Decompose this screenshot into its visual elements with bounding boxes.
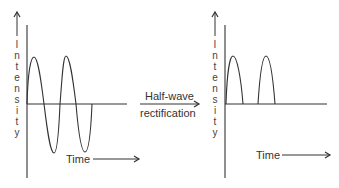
- letter: n: [12, 83, 22, 94]
- letter: I: [12, 39, 22, 50]
- letter: n: [210, 50, 220, 61]
- left-time-label: Time: [66, 154, 90, 165]
- letter: i: [210, 105, 220, 116]
- letter: n: [12, 50, 22, 61]
- right-intensity-label: I n t e n s i t y: [210, 39, 220, 138]
- letter: I: [210, 39, 220, 50]
- rectified-pulse-1: [226, 56, 243, 104]
- letter: t: [210, 61, 220, 72]
- letter: s: [12, 94, 22, 105]
- rectified-pulse-2: [258, 56, 275, 104]
- letter: t: [12, 61, 22, 72]
- letter: t: [210, 116, 220, 127]
- transform-label-line1: Half-wave: [145, 91, 194, 102]
- left-intensity-label: I n t e n s i t y: [12, 39, 22, 138]
- right-time-label: Time: [256, 150, 280, 161]
- letter: n: [210, 83, 220, 94]
- transform-label-line2: rectification: [140, 108, 196, 119]
- letter: s: [210, 94, 220, 105]
- letter: e: [12, 72, 22, 83]
- letter: y: [12, 127, 22, 138]
- letter: t: [12, 116, 22, 127]
- letter: y: [210, 127, 220, 138]
- half-wave-rectification-diagram: I n t e n s i t y Time Half-wave rectifi…: [0, 0, 339, 188]
- letter: i: [12, 105, 22, 116]
- letter: e: [210, 72, 220, 83]
